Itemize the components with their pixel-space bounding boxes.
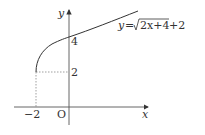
y-axis-label: y bbox=[57, 7, 65, 20]
svg-text:=: = bbox=[125, 19, 134, 32]
svg-text:+2: +2 bbox=[169, 19, 185, 32]
tick-label-y-4: 4 bbox=[71, 35, 78, 48]
svg-text:y: y bbox=[117, 19, 125, 32]
tick-label-x-neg2: −2 bbox=[24, 108, 40, 121]
svg-text:2x+4: 2x+4 bbox=[140, 19, 169, 32]
x-axis-label: x bbox=[142, 108, 149, 121]
equation-label: y = 2x+4 +2 bbox=[117, 19, 185, 32]
tick-label-y-2: 2 bbox=[71, 66, 78, 79]
origin-label: O bbox=[57, 108, 66, 121]
function-graph: y x O −2 2 4 y = 2x+4 +2 bbox=[0, 0, 205, 135]
